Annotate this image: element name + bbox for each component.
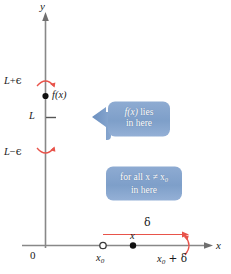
fx-point-label: f(x) (52, 89, 67, 100)
y-axis (42, 12, 49, 248)
x-point-label: x (130, 230, 135, 241)
x-axis (22, 242, 213, 249)
fx-callout-line1b: lies (138, 107, 154, 117)
fx-point-marker (42, 93, 48, 99)
x-point-marker (130, 242, 136, 248)
fx-lies-callout-text: f(x) lies in here (112, 107, 166, 129)
tick-l-only: L (29, 110, 35, 121)
fa-callout-line1a: for all x (120, 172, 150, 182)
for-all-x-callout-text: for all x ≠ x0 in here (109, 172, 179, 196)
x0-point-marker (100, 242, 106, 248)
limit-definition-figure: y x 0 L+ϵ L L−ϵ f(x) x0 x x0 + δ δ f(x) … (0, 0, 231, 274)
tick-label-l-minus-epsilon: L−ϵ (4, 145, 22, 157)
x0-sub: 0 (101, 257, 105, 265)
tick-label-l-plus-epsilon: L+ϵ (4, 74, 22, 86)
fx-callout-line2: in here (126, 118, 152, 128)
tick-label-l: L (29, 110, 35, 121)
x0-plus-delta-label: x0 + δ (157, 252, 187, 266)
figure-canvas (0, 0, 231, 274)
tick-lm-eps: ϵ (16, 145, 22, 157)
origin-label: 0 (30, 249, 36, 261)
tick-l-eps: ϵ (16, 74, 22, 86)
fa-callout-line2: in here (131, 185, 157, 195)
x-axis-label: x (216, 239, 221, 251)
x0-point-label: x0 (96, 252, 104, 265)
fa-callout-line1b: ≠ x (150, 172, 165, 182)
delta-label: δ (144, 216, 151, 229)
fx-callout-line1a: f(x) (125, 107, 138, 117)
x0d-rest: + δ (165, 252, 187, 264)
fa-callout-line1sub: 0 (165, 176, 168, 183)
y-axis-label: y (40, 0, 45, 12)
delta-measure-arrow (103, 232, 189, 238)
